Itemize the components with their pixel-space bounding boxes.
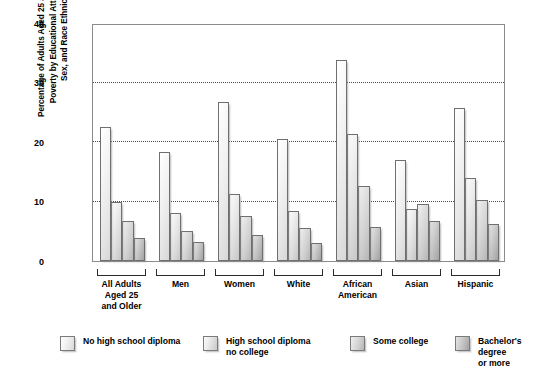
x-axis-group-bracket (392, 269, 441, 276)
bar (218, 102, 229, 261)
x-axis-group-bracket (333, 269, 382, 276)
bar-group (336, 25, 381, 261)
poverty-education-bar-chart: Percentage of Adults Aged 25 and Older i… (0, 0, 550, 377)
bar (229, 194, 240, 261)
legend-item[interactable]: Some college (350, 336, 428, 351)
bar (193, 242, 204, 261)
bar-group (277, 25, 322, 261)
bar (100, 127, 111, 261)
x-axis-group-bracket (97, 269, 146, 276)
legend-item[interactable]: No high school diploma (60, 336, 180, 351)
y-tick-label-30: 30 (14, 79, 44, 88)
x-axis-label: Hispanic (437, 279, 514, 290)
bar (488, 224, 499, 261)
bar (454, 108, 465, 261)
bar-group (100, 25, 145, 261)
plot-inner (93, 25, 504, 261)
legend-swatch-icon (455, 336, 470, 351)
legend-label: No high school diploma (83, 336, 180, 347)
bar (476, 200, 487, 261)
bar (134, 238, 145, 261)
legend-item[interactable]: Bachelor's degree or more (455, 336, 540, 369)
x-axis-label-line: and Older (83, 301, 160, 312)
chart-legend: No high school diplomaHigh school diplom… (60, 336, 540, 376)
y-tick-label-10: 10 (14, 198, 44, 207)
y-axis-title-line-3: Sex, and Race Ethnicity (59, 0, 71, 170)
legend-swatch-icon (60, 336, 75, 351)
bar (170, 213, 181, 261)
bar (252, 235, 263, 261)
x-axis-label-line: Aged 25 (83, 290, 160, 301)
x-axis-label-line: Hispanic (437, 279, 514, 290)
bar (417, 204, 428, 261)
bar (465, 178, 476, 261)
legend-item[interactable]: High school diploma no college (203, 336, 311, 358)
legend-label: Bachelor's degree or more (478, 336, 540, 369)
legend-label: High school diploma no college (226, 336, 311, 358)
y-tick-label-20: 20 (14, 139, 44, 148)
bar (406, 209, 417, 261)
bar (240, 216, 251, 261)
bar (299, 228, 310, 261)
bar (111, 202, 122, 262)
bar (159, 152, 170, 261)
bar (358, 186, 369, 261)
legend-swatch-icon (350, 336, 365, 351)
bar (347, 134, 358, 261)
legend-swatch-icon (203, 336, 218, 351)
y-tick-label-40: 40 (14, 20, 44, 29)
bar (429, 221, 440, 261)
bar (122, 221, 133, 261)
legend-label: Some college (373, 336, 428, 347)
x-axis-group-bracket (451, 269, 500, 276)
bar (288, 211, 299, 261)
bar-group (159, 25, 204, 261)
x-axis-group-bracket (156, 269, 205, 276)
y-tick-label-0: 0 (14, 258, 44, 267)
x-axis-group-bracket (215, 269, 264, 276)
x-axis-label-line: American (319, 290, 396, 301)
bar-group (454, 25, 499, 261)
bar (395, 160, 406, 261)
y-axis-title-line-2: Poverty by Educational Attainment, (47, 0, 59, 170)
plot-area (92, 24, 505, 262)
bar-group (395, 25, 440, 261)
bar-group (218, 25, 263, 261)
bar (336, 60, 347, 261)
bar (181, 231, 192, 261)
bar (277, 139, 288, 261)
x-axis-group-bracket (274, 269, 323, 276)
bar (370, 227, 381, 262)
bar (311, 243, 322, 261)
